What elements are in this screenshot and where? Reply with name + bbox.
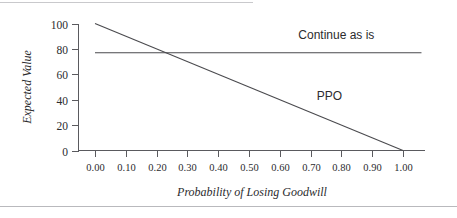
x-axis-ticks: 0.000.100.200.300.400.500.600.700.800.90…: [86, 151, 412, 174]
line-chart: 020406080100 0.000.100.200.300.400.500.6…: [0, 0, 457, 218]
series-labels: PPOContinue as is: [298, 28, 374, 103]
x-tick-label: 0.20: [148, 162, 166, 173]
series-label-ppo: PPO: [317, 89, 342, 103]
x-tick-label: 0.80: [332, 162, 350, 173]
y-axis-ticks: 020406080100: [51, 19, 79, 158]
x-tick-label: 0.50: [240, 162, 258, 173]
y-axis-title: Expected Value: [20, 50, 34, 125]
x-tick-label: 0.60: [271, 162, 289, 173]
x-tick-label: 0.00: [86, 162, 104, 173]
x-tick-label: 1.00: [394, 162, 412, 173]
x-tick-label: 0.90: [363, 162, 381, 173]
y-tick-label: 40: [57, 95, 69, 107]
x-tick-label: 0.70: [302, 162, 320, 173]
x-tick-label: 0.40: [209, 162, 227, 173]
x-tick-label: 0.10: [117, 162, 135, 173]
x-tick-label: 0.30: [178, 162, 196, 173]
y-tick-label: 60: [57, 69, 69, 81]
series-label-continue-as-is: Continue as is: [298, 28, 374, 42]
y-tick-label: 20: [57, 120, 69, 132]
y-tick-label: 100: [51, 19, 69, 31]
y-tick-label: 80: [57, 44, 69, 56]
series-lines: [95, 24, 421, 151]
x-axis-title: Probability of Losing Goodwill: [176, 185, 328, 199]
y-tick-label: 0: [62, 146, 68, 158]
series-line-ppo: [95, 24, 403, 151]
chart-figure: 020406080100 0.000.100.200.300.400.500.6…: [0, 0, 457, 218]
